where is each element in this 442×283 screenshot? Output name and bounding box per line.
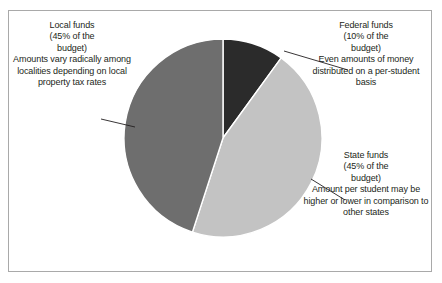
pie-chart-figure: Local funds (45% of the budget) Amounts … <box>0 0 442 283</box>
pie-chart <box>124 38 322 238</box>
callout-state-line3: budget) <box>303 173 429 184</box>
callout-federal-line1: Federal funds <box>303 20 429 31</box>
callout-state-line2: (45% of the <box>303 161 429 172</box>
callout-state-funds: State funds (45% of the budget) Amount p… <box>303 150 429 218</box>
callout-federal-funds: Federal funds (10% of the budget) Even a… <box>303 20 429 88</box>
callout-local-line1: Local funds <box>12 20 132 31</box>
callout-local-body: Amounts vary radically among localities … <box>12 54 132 88</box>
callout-federal-line2: (10% of the <box>303 31 429 42</box>
callout-state-line1: State funds <box>303 150 429 161</box>
callout-local-line2: (45% of the <box>12 31 132 42</box>
pie-svg <box>124 38 322 238</box>
callout-federal-body: Even amounts of money distributed on a p… <box>303 54 429 88</box>
callout-state-body: Amount per student may be higher or lowe… <box>303 184 429 218</box>
callout-local-line3: budget) <box>12 43 132 54</box>
callout-local-funds: Local funds (45% of the budget) Amounts … <box>12 20 132 88</box>
callout-federal-line3: budget) <box>303 43 429 54</box>
